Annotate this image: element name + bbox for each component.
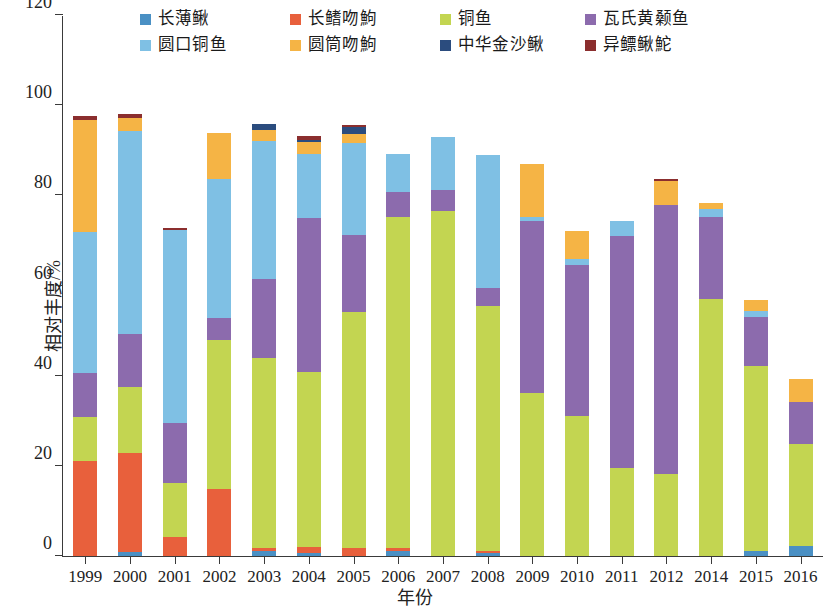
bar-stack[interactable] [163, 228, 187, 556]
bar-group[interactable]: 2016 [778, 16, 823, 556]
bar-group[interactable]: 2004 [287, 16, 332, 556]
bar-segment[interactable] [386, 154, 410, 192]
bar-segment[interactable] [744, 366, 768, 551]
bar-segment[interactable] [476, 306, 500, 551]
bar-group[interactable]: 2005 [331, 16, 376, 556]
bar-stack[interactable] [297, 136, 321, 556]
bar-stack[interactable] [654, 179, 678, 556]
bar-segment[interactable] [431, 190, 455, 211]
bar-segment[interactable] [163, 230, 187, 423]
bar-segment[interactable] [118, 453, 142, 552]
bar-segment[interactable] [789, 546, 813, 556]
bar-segment[interactable] [610, 468, 634, 556]
bar-group[interactable]: 2011 [599, 16, 644, 556]
bar-group[interactable]: 2000 [108, 16, 153, 556]
bar-segment[interactable] [654, 181, 678, 205]
bar-segment[interactable] [297, 218, 321, 371]
bar-segment[interactable] [252, 358, 276, 549]
bar-stack[interactable] [207, 133, 231, 556]
bar-segment[interactable] [789, 379, 813, 402]
bar-segment[interactable] [565, 265, 589, 416]
bar-stack[interactable] [744, 300, 768, 556]
bar-segment[interactable] [342, 235, 366, 312]
bar-stack[interactable] [252, 124, 276, 556]
bar-segment[interactable] [252, 130, 276, 140]
bar-segment[interactable] [118, 118, 142, 132]
bar-group[interactable]: 2008 [465, 16, 510, 556]
bar-segment[interactable] [744, 300, 768, 311]
bar-stack[interactable] [789, 379, 813, 556]
bar-segment[interactable] [207, 489, 231, 556]
bar-segment[interactable] [342, 312, 366, 548]
bar-segment[interactable] [252, 124, 276, 131]
bar-segment[interactable] [386, 217, 410, 548]
bar-segment[interactable] [252, 279, 276, 358]
bar-segment[interactable] [73, 417, 97, 461]
bar-segment[interactable] [297, 372, 321, 547]
bar-segment[interactable] [207, 318, 231, 340]
bar-stack[interactable] [386, 154, 410, 556]
bar-segment[interactable] [252, 141, 276, 279]
bar-stack[interactable] [342, 125, 366, 556]
bar-segment[interactable] [431, 137, 455, 191]
bar-segment[interactable] [297, 142, 321, 154]
bar-stack[interactable] [699, 203, 723, 556]
bar-segment[interactable] [207, 133, 231, 179]
bar-segment[interactable] [342, 127, 366, 134]
bar-segment[interactable] [654, 205, 678, 474]
bar-segment[interactable] [699, 299, 723, 556]
bar-group[interactable]: 2014 [689, 16, 734, 556]
bar-segment[interactable] [476, 155, 500, 288]
bar-segment[interactable] [520, 164, 544, 216]
bar-segment[interactable] [431, 211, 455, 556]
bar-segment[interactable] [654, 474, 678, 556]
bar-segment[interactable] [520, 393, 544, 556]
bar-stack[interactable] [565, 231, 589, 556]
bar-segment[interactable] [297, 154, 321, 218]
bar-group[interactable]: 2002 [197, 16, 242, 556]
bar-segment[interactable] [476, 288, 500, 306]
bar-stack[interactable] [118, 114, 142, 556]
bar-segment[interactable] [610, 236, 634, 468]
bar-segment[interactable] [342, 143, 366, 236]
bar-segment[interactable] [565, 416, 589, 556]
bar-segment[interactable] [386, 192, 410, 216]
bar-segment[interactable] [565, 231, 589, 259]
bar-group[interactable]: 2003 [242, 16, 287, 556]
bar-group[interactable]: 2015 [734, 16, 779, 556]
bar-segment[interactable] [163, 423, 187, 483]
bar-segment[interactable] [342, 134, 366, 143]
bar-segment[interactable] [73, 373, 97, 417]
bar-stack[interactable] [520, 164, 544, 556]
bar-segment[interactable] [73, 461, 97, 556]
bar-segment[interactable] [342, 548, 366, 556]
bar-stack[interactable] [73, 116, 97, 556]
bar-segment[interactable] [520, 221, 544, 393]
bar-group[interactable]: 2010 [555, 16, 600, 556]
bar-segment[interactable] [699, 209, 723, 217]
bar-segment[interactable] [163, 483, 187, 537]
bar-segment[interactable] [744, 317, 768, 366]
bar-group[interactable]: 2009 [510, 16, 555, 556]
bar-segment[interactable] [789, 402, 813, 444]
bar-segment[interactable] [789, 444, 813, 546]
bar-segment[interactable] [297, 547, 321, 554]
bar-segment[interactable] [163, 537, 187, 556]
bar-segment[interactable] [207, 340, 231, 490]
bar-segment[interactable] [73, 120, 97, 233]
bar-group[interactable]: 1999 [63, 16, 108, 556]
bar-segment[interactable] [73, 232, 97, 373]
bar-group[interactable]: 2001 [152, 16, 197, 556]
bar-segment[interactable] [118, 387, 142, 454]
bar-group[interactable]: 2006 [376, 16, 421, 556]
bar-segment[interactable] [118, 334, 142, 387]
bar-stack[interactable] [610, 221, 634, 556]
bar-stack[interactable] [476, 155, 500, 556]
bar-segment[interactable] [699, 217, 723, 300]
bar-segment[interactable] [207, 179, 231, 317]
bar-segment[interactable] [118, 131, 142, 333]
bar-group[interactable]: 2012 [644, 16, 689, 556]
bar-stack[interactable] [431, 137, 455, 556]
bar-segment[interactable] [610, 221, 634, 236]
bar-group[interactable]: 2007 [421, 16, 466, 556]
